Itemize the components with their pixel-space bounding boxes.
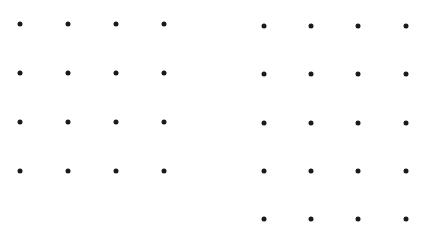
dot [404,121,409,126]
dot [309,217,314,222]
dot [262,169,267,174]
dot [309,24,314,29]
dot [309,121,314,126]
dot [356,217,361,222]
dot [262,24,267,29]
dot [404,24,409,29]
dot [262,72,267,77]
dot [356,72,361,77]
dot [262,121,267,126]
dot [262,217,267,222]
dot [356,121,361,126]
dot [404,217,409,222]
dot [309,72,314,77]
right-dot-grid [0,0,423,228]
dot [404,169,409,174]
dot [356,169,361,174]
dot [309,169,314,174]
dot [404,72,409,77]
dot [356,24,361,29]
